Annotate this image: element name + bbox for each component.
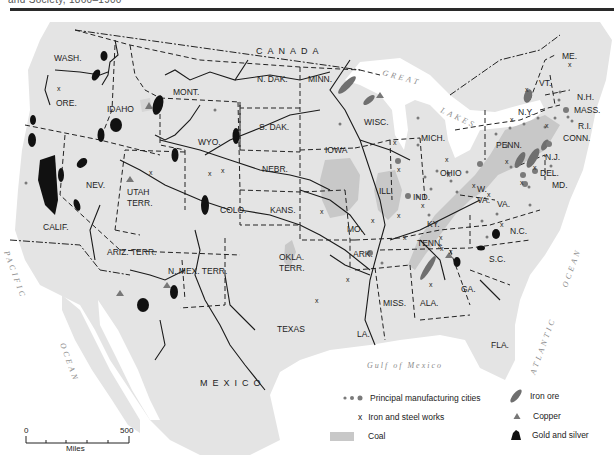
- label-ill: ILL.: [379, 186, 393, 196]
- label-utah-terr: TERR.: [127, 198, 153, 208]
- label-ohio: OHIO: [440, 168, 462, 178]
- label-del: DEL.: [540, 168, 559, 178]
- label-ind: IND.: [413, 192, 430, 202]
- label-penn: PENN.: [496, 140, 522, 150]
- label-wva-2: VA.: [477, 195, 490, 205]
- svg-text:x: x: [525, 86, 529, 93]
- label-wva: W.: [477, 184, 487, 194]
- label-miss: MISS.: [383, 298, 406, 308]
- label-la: LA.: [357, 329, 370, 339]
- label-tenn: TENN.: [417, 238, 443, 248]
- scale-end: 500: [120, 426, 133, 435]
- legend-item-copper: Copper: [513, 411, 561, 421]
- label-utah: UTAH: [127, 187, 150, 197]
- svg-text:x: x: [57, 85, 61, 92]
- svg-text:x: x: [568, 61, 572, 68]
- map-legend: Principal manufacturing cities x Iron an…: [330, 393, 616, 459]
- scale-ruler: [25, 436, 131, 444]
- svg-text:x: x: [449, 248, 453, 255]
- label-ariz: ARIZ. TERR.: [107, 247, 156, 257]
- label-ark: ARK.: [353, 249, 373, 259]
- label-me: ME.: [562, 51, 577, 61]
- svg-text:x: x: [221, 167, 225, 174]
- label-okla: OKLA.: [279, 252, 304, 262]
- x-mark-icon: x: [358, 412, 362, 422]
- svg-text:x: x: [500, 221, 504, 228]
- label-nebr: NEBR.: [262, 164, 288, 174]
- copper-triangle-icon: [513, 412, 521, 420]
- svg-text:x: x: [403, 234, 407, 241]
- svg-text:x: x: [315, 297, 319, 304]
- label-atlantic: ATLANTIC: [528, 316, 557, 377]
- label-wisc: WISC.: [364, 117, 389, 127]
- label-md: MD.: [552, 180, 568, 190]
- svg-text:x: x: [510, 116, 514, 123]
- manufacturing-dots-icon: [342, 394, 364, 402]
- legend-label: Gold and silver: [532, 430, 589, 440]
- label-ga: GA.: [461, 284, 476, 294]
- svg-text:x: x: [397, 166, 401, 173]
- label-vt: VT.: [539, 78, 551, 88]
- scale-start: 0: [24, 426, 28, 435]
- svg-text:x: x: [421, 202, 425, 209]
- label-iowa: IOWA: [325, 145, 348, 155]
- svg-text:x: x: [505, 158, 509, 165]
- coal-swatch-icon: [330, 432, 354, 441]
- label-ky: KY.: [427, 219, 440, 229]
- legend-item-coal: Coal: [330, 431, 385, 441]
- svg-text:x: x: [208, 170, 212, 177]
- label-mich: MICH.: [421, 133, 445, 143]
- label-ny: N.Y.: [518, 107, 533, 117]
- legend-label: Principal manufacturing cities: [370, 393, 481, 403]
- label-canada: CANADA: [256, 46, 324, 56]
- svg-text:x: x: [545, 122, 549, 129]
- label-okla-terr: TERR.: [279, 263, 305, 273]
- label-conn: CONN.: [563, 133, 590, 143]
- legend-label: Iron and steel works: [368, 412, 444, 422]
- label-ri: R.I.: [578, 121, 591, 131]
- label-sdak: S. DAK.: [259, 122, 289, 132]
- svg-text:x: x: [520, 179, 524, 186]
- label-mont: MONT.: [173, 87, 199, 97]
- label-calif: CALIF.: [43, 222, 69, 232]
- label-idaho: IDAHO: [107, 104, 134, 114]
- label-nmex: N. MEX. TERR.: [168, 266, 227, 276]
- label-wyo: WYO.: [198, 137, 221, 147]
- label-nc: N.C.: [510, 226, 527, 236]
- label-nh: N.H.: [577, 92, 594, 102]
- label-wash: WASH.: [54, 53, 82, 63]
- label-mexico: MEXICO: [200, 378, 266, 388]
- svg-text:x: x: [472, 182, 476, 189]
- label-mass: MASS.: [574, 105, 600, 115]
- svg-text:x: x: [393, 139, 397, 146]
- svg-text:x: x: [533, 164, 537, 171]
- label-ndak: N. DAK.: [257, 74, 288, 84]
- label-minn: MINN.: [308, 74, 332, 84]
- label-nev: NEV.: [86, 180, 105, 190]
- label-ore: ORE.: [56, 98, 77, 108]
- iron-ore-icon: [508, 389, 524, 403]
- legend-item-iron-ore: Iron ore: [508, 389, 559, 403]
- legend-label: Copper: [533, 411, 561, 421]
- label-texas: TEXAS: [277, 324, 305, 334]
- legend-label: Iron ore: [530, 391, 559, 401]
- gold-silver-icon: [510, 429, 522, 441]
- label-ala: ALA.: [420, 298, 438, 308]
- label-kans: KANS.: [270, 205, 296, 215]
- label-pacific-ocean: OCEAN: [58, 342, 81, 384]
- label-atlantic-ocean: OCEAN: [560, 247, 583, 289]
- scale-bar: 0 500 Miles: [24, 426, 136, 456]
- svg-text:x: x: [445, 156, 449, 163]
- label-nj: N.J.: [545, 152, 560, 162]
- legend-item-manufacturing: Principal manufacturing cities: [342, 393, 481, 403]
- svg-text:x: x: [320, 208, 324, 215]
- label-gulf-of-mexico: Gulf of Mexico: [367, 361, 443, 370]
- legend-label: Coal: [368, 431, 385, 441]
- scale-unit: Miles: [66, 444, 85, 453]
- svg-text:x: x: [397, 212, 401, 219]
- svg-text:x: x: [149, 169, 153, 176]
- label-va: VA.: [497, 199, 510, 209]
- legend-item-iron-steel: x Iron and steel works: [358, 412, 444, 422]
- svg-text:x: x: [371, 217, 375, 224]
- svg-text:x: x: [346, 276, 350, 283]
